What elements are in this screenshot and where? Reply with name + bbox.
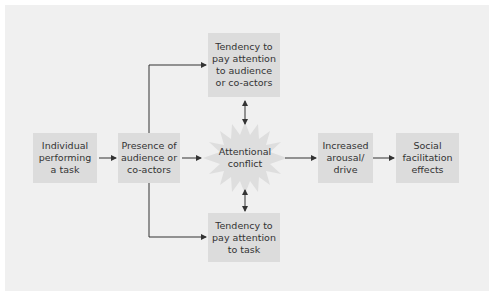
node-text: Increased (322, 140, 368, 152)
node-text: pay attention (212, 53, 276, 65)
arrow-presence-to-attend-task (149, 183, 206, 237)
arrow-presence-to-attend-audience (149, 65, 206, 133)
node-text: Tendency to (212, 41, 276, 53)
node-text: pay attention (212, 232, 276, 244)
node-text: to audience (212, 65, 276, 77)
node-text: Individual (39, 140, 92, 152)
node-presence: Presence of audience or co-actors (118, 133, 180, 183)
node-text: or co-actors (212, 77, 276, 89)
node-text: drive (322, 164, 368, 176)
node-effects: Social facilitation effects (396, 133, 459, 183)
node-text: a task (39, 164, 92, 176)
node-text: Attentional (219, 146, 271, 158)
node-text: facilitation (402, 152, 452, 164)
node-text: performing (39, 152, 92, 164)
node-text: conflict (228, 158, 263, 170)
node-text: to task (212, 244, 276, 256)
node-text: arousal/ (322, 152, 368, 164)
node-arousal: Increased arousal/ drive (318, 133, 373, 183)
node-text: Presence of (121, 140, 177, 152)
node-individual: Individual performing a task (33, 133, 97, 183)
node-text: effects (402, 164, 452, 176)
node-attend-audience: Tendency to pay attention to audience or… (208, 33, 280, 97)
node-conflict: Attentional conflict (205, 140, 285, 176)
node-attend-task: Tendency to pay attention to task (208, 213, 280, 262)
node-text: audience or (121, 152, 177, 164)
node-text: Social (402, 140, 452, 152)
node-text: co-actors (121, 164, 177, 176)
node-text: Tendency to (212, 220, 276, 232)
